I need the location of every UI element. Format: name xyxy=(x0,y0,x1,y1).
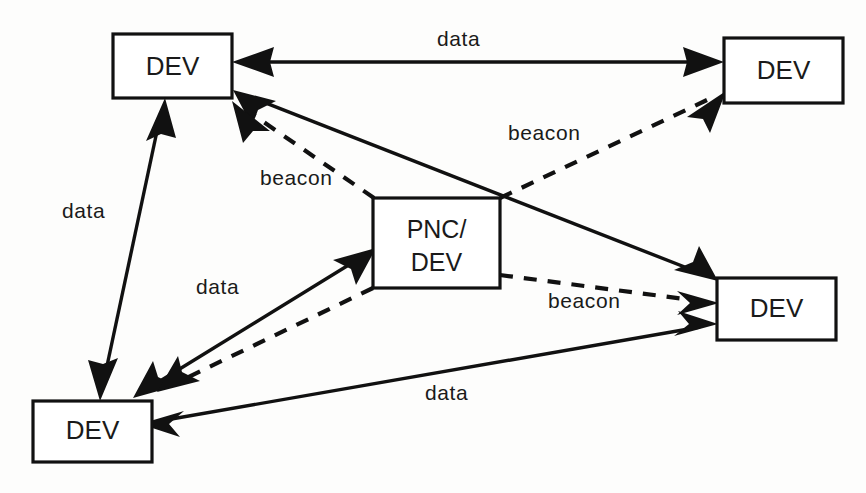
edge-label-data-top: data xyxy=(437,27,480,50)
edge-data-bl-br xyxy=(140,311,718,437)
arrowhead-downright xyxy=(674,246,718,281)
arrowhead-beacon-tr xyxy=(687,91,726,133)
arrowhead-up xyxy=(146,98,176,141)
arrowhead-down xyxy=(88,358,118,401)
edge-data-tl-tr xyxy=(232,47,724,77)
edge-label-beacon-right: beacon xyxy=(548,289,621,312)
node-dev-bottom-left[interactable]: DEV xyxy=(33,401,152,462)
node-dev-bottom-right[interactable]: DEV xyxy=(717,278,836,340)
edge-label-beacon-top-right: beacon xyxy=(508,121,581,144)
diagram-canvas: DEV DEV PNC/ DEV DEV DEV data beacon bea… xyxy=(0,0,866,493)
edge-label-data-mid-left: data xyxy=(196,275,239,298)
edge-label-beacon-center: beacon xyxy=(260,166,333,189)
arrowhead-upright xyxy=(333,248,376,285)
arrowhead-right xyxy=(674,311,718,336)
node-label-dev-bottom-right: DEV xyxy=(750,293,804,323)
arrowhead-beacon-br xyxy=(677,291,719,315)
node-dev-top-left[interactable]: DEV xyxy=(113,34,232,98)
node-label-dev-top-left: DEV xyxy=(146,51,200,81)
node-pnc-dev-center[interactable]: PNC/ DEV xyxy=(373,198,500,288)
arrowhead-right xyxy=(683,47,724,77)
edge-label-data-left: data xyxy=(62,199,105,222)
node-label-dev-bottom-left: DEV xyxy=(66,415,120,445)
edge-data-tl-bl xyxy=(88,98,176,401)
arrowhead-left xyxy=(232,47,274,77)
edge-beacon-pnc-bl xyxy=(157,288,373,392)
node-label-pnc-dev-line2: DEV xyxy=(411,248,463,276)
node-dev-top-right[interactable]: DEV xyxy=(724,38,843,103)
edge-beacon-pnc-tr xyxy=(500,91,726,198)
network-diagram: DEV DEV PNC/ DEV DEV DEV data beacon bea… xyxy=(0,0,866,493)
node-label-pnc-dev-line1: PNC/ xyxy=(407,215,467,243)
edge-label-data-bottom: data xyxy=(425,381,468,404)
node-label-dev-top-right: DEV xyxy=(757,55,811,85)
